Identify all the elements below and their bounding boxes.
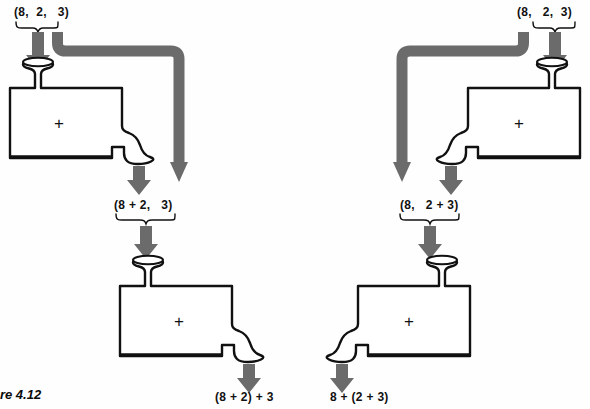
operator-symbol-top-right: + bbox=[514, 114, 524, 134]
input-label-top-right: (8, 2, 3) bbox=[517, 5, 572, 19]
diagram-graphics bbox=[0, 0, 590, 409]
down-arrow-icon-bypass-left bbox=[170, 162, 188, 182]
figure-caption: ure 4.12 bbox=[0, 387, 41, 402]
down-arrow-icon-output-bottom-left bbox=[237, 364, 261, 393]
brace-icon-top-left bbox=[16, 22, 58, 32]
down-arrow-icon-bypass-right bbox=[393, 162, 411, 182]
down-arrow-icon-output-left bbox=[127, 166, 151, 195]
adder-machine-bottom-right bbox=[327, 256, 470, 362]
intermediate-label-left: (8 + 2, 3) bbox=[114, 198, 173, 212]
operator-symbol-bottom-left: + bbox=[174, 312, 184, 332]
down-arrow-icon-output-right bbox=[439, 166, 463, 195]
down-arrow-icon-mid-left bbox=[134, 226, 158, 259]
output-label-bottom-right: 8 + (2 + 3) bbox=[330, 390, 389, 404]
intermediate-label-right: (8, 2 + 3) bbox=[400, 198, 459, 212]
brace-icon-mid-left bbox=[116, 214, 175, 224]
adder-machine-top-left bbox=[10, 58, 153, 164]
brace-icon-top-right bbox=[533, 22, 575, 32]
adder-machine-bottom-left bbox=[120, 256, 263, 362]
down-arrow-icon-output-bottom-right bbox=[330, 364, 354, 393]
input-label-top-left: (8, 2, 3) bbox=[14, 5, 69, 19]
brace-icon-mid-right bbox=[400, 214, 459, 224]
down-arrow-icon-mid-right bbox=[418, 226, 442, 259]
operator-symbol-bottom-right: + bbox=[404, 312, 414, 332]
adder-machine-top-right bbox=[437, 58, 580, 164]
output-label-bottom-left: (8 + 2) + 3 bbox=[215, 390, 274, 404]
operator-symbol-top-left: + bbox=[54, 114, 64, 134]
figure-canvas: + + + + (8, 2, 3) (8, 2, 3) (8 + 2, 3) (… bbox=[0, 0, 590, 409]
